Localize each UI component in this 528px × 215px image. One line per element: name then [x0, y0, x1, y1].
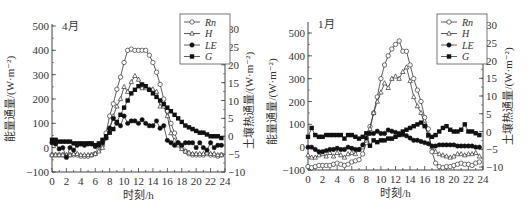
y-tick-label: 200 — [33, 93, 50, 105]
chart-title: 1月 — [318, 18, 335, 30]
x-axis-label: 时刻/h — [380, 186, 411, 199]
y2-tick-label: −5 — [228, 148, 240, 160]
x-tick-label: 14 — [405, 173, 417, 185]
y2-tick-label: 5 — [486, 108, 492, 120]
series-g — [50, 82, 224, 147]
legend-label-h: H — [461, 28, 470, 39]
y-tick-label: −100 — [26, 166, 49, 178]
chart-title: 4月 — [62, 20, 79, 32]
y2-axis-label: 土壤热通量/(W·m⁻²) — [242, 52, 256, 149]
x-tick-label: 10 — [119, 175, 131, 187]
x-tick-label: 10 — [375, 173, 387, 185]
y-tick-label: 400 — [289, 50, 306, 62]
y-tick-label: 500 — [33, 20, 50, 32]
x-tick-label: 4 — [334, 173, 340, 185]
chart-april-plot: 024681012141618202224−100010020030040050… — [0, 0, 264, 215]
y2-tick-label: 25 — [486, 37, 498, 49]
y2-tick-label: 15 — [228, 77, 240, 89]
y-tick-label: 0 — [300, 141, 306, 153]
x-tick-label: 0 — [49, 175, 55, 187]
y-tick-label: 300 — [289, 73, 306, 85]
x-tick-label: 6 — [349, 173, 355, 185]
x-tick-label: 8 — [107, 175, 113, 187]
x-tick-label: 16 — [419, 173, 431, 185]
x-tick-label: 6 — [93, 175, 99, 187]
y2-tick-label: −10 — [228, 166, 246, 178]
y-tick-label: 0 — [44, 142, 50, 154]
x-tick-label: 8 — [364, 173, 370, 185]
y-axis-label: 能量通量/(W·m⁻²) — [265, 58, 279, 144]
y2-tick-label: −10 — [486, 161, 504, 173]
legend-label-rn: Rn — [461, 17, 473, 28]
x-tick-label: 14 — [147, 175, 159, 187]
y-tick-label: 100 — [289, 118, 306, 130]
y2-tick-label: 5 — [228, 112, 234, 124]
legend-label-h: H — [204, 28, 213, 39]
y2-tick-label: 0 — [228, 130, 234, 142]
series-le — [50, 114, 224, 160]
x-tick-label: 0 — [305, 173, 311, 185]
chart-january-plot: 024681012141618202224−100010020030040050… — [264, 0, 528, 215]
y-axis-label: 能量通量/(W·m⁻²) — [3, 56, 17, 142]
x-tick-label: 22 — [205, 175, 216, 187]
x-tick-label: 22 — [463, 173, 474, 185]
x-tick-label: 2 — [64, 175, 70, 187]
legend-label-g: G — [205, 51, 212, 62]
y-tick-label: 100 — [33, 117, 50, 129]
legend-label-le: LE — [461, 40, 474, 51]
y-tick-label: 500 — [289, 27, 306, 39]
x-tick-label: 12 — [133, 175, 144, 187]
x-tick-label: 24 — [478, 173, 490, 185]
y-tick-label: 400 — [33, 44, 50, 56]
y-tick-label: −100 — [282, 164, 305, 176]
y2-tick-label: −5 — [486, 143, 498, 155]
y-tick-label: 200 — [289, 96, 306, 108]
y2-tick-label: 20 — [486, 55, 498, 67]
legend-label-rn: Rn — [204, 17, 216, 28]
x-tick-label: 20 — [448, 173, 460, 185]
legend-label-g: G — [462, 51, 469, 62]
x-tick-label: 18 — [176, 175, 188, 187]
legend: RnHLEG — [180, 14, 230, 64]
x-axis-label: 时刻/h — [123, 188, 154, 201]
x-tick-label: 4 — [78, 175, 84, 187]
y2-tick-label: 30 — [486, 19, 498, 31]
y2-tick-label: 15 — [486, 72, 498, 84]
chart-january: 024681012141618202224−100010020030040050… — [264, 0, 528, 215]
x-tick-label: 20 — [191, 175, 203, 187]
x-tick-label: 2 — [320, 173, 326, 185]
chart-april: 024681012141618202224−100010020030040050… — [0, 0, 264, 215]
x-tick-label: 18 — [434, 173, 446, 185]
legend-label-le: LE — [204, 40, 217, 51]
x-tick-label: 12 — [390, 173, 401, 185]
y2-tick-label: 0 — [486, 126, 492, 138]
legend: RnHLEG — [437, 14, 487, 64]
y2-tick-label: 10 — [228, 95, 240, 107]
y2-axis-label: 土壤热通量/(W·m⁻²) — [501, 47, 515, 144]
y2-tick-label: 10 — [486, 90, 498, 102]
x-tick-label: 16 — [162, 175, 174, 187]
y-tick-label: 300 — [33, 69, 50, 81]
